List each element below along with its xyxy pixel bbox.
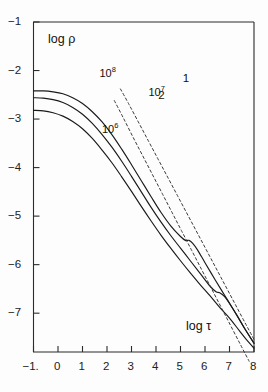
curve-10e6 (34, 110, 255, 348)
y-tick-1: −2 (8, 65, 21, 77)
plot-canvas (0, 0, 268, 392)
curve-2 (114, 101, 249, 362)
y-tick-3: −4 (8, 162, 21, 174)
curve-1 (120, 89, 254, 339)
dashed-label-2: 2 (158, 90, 164, 102)
curve-label-10e6-exponent: 6 (114, 121, 118, 130)
plot-frame (34, 22, 255, 352)
y-tick-2: −3 (8, 113, 21, 125)
x-tick-8: 7 (226, 361, 232, 373)
y-tick-6: −7 (8, 307, 21, 319)
y-axis-title: log ρ (48, 33, 75, 46)
axis-ticks (34, 22, 255, 352)
curve-label-10e8-base: 10 (99, 67, 111, 79)
x-tick-7: 6 (201, 361, 207, 373)
x-tick-1: 0 (54, 361, 60, 373)
curve-10e8 (34, 91, 255, 343)
dashed-label-1: 1 (183, 73, 189, 85)
x-tick-2: 1 (79, 361, 85, 373)
curve-label-10e6: 106 (102, 122, 118, 135)
x-tick-5: 4 (152, 361, 158, 373)
x-tick-0: −1. (23, 361, 39, 373)
x-tick-4: 3 (128, 361, 134, 373)
y-tick-4: −5 (8, 210, 21, 222)
data-curves (34, 89, 255, 361)
x-tick-9: 8 (250, 361, 256, 373)
x-tick-3: 2 (103, 361, 109, 373)
y-tick-5: −6 (8, 259, 21, 271)
curve-label-10e8: 108 (99, 66, 115, 79)
curve-label-10e6-base: 10 (102, 122, 114, 134)
chart-figure: −1−2−3−4−5−6−7 −1.012345678 log ρ log τ … (0, 0, 268, 392)
y-tick-0: −1 (8, 16, 21, 28)
x-tick-6: 5 (177, 361, 183, 373)
curve-label-10e8-exponent: 8 (112, 65, 116, 74)
x-axis-title: log τ (186, 320, 211, 333)
